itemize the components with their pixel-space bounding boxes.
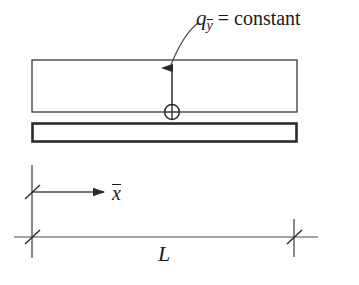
- technical-diagram: qy= constant x L: [0, 0, 359, 285]
- upper-beam-rectangle: [32, 60, 297, 112]
- diagram-canvas: [0, 0, 359, 285]
- lower-beam-rectangle: [33, 124, 297, 142]
- circle-plus-icon: [165, 105, 180, 120]
